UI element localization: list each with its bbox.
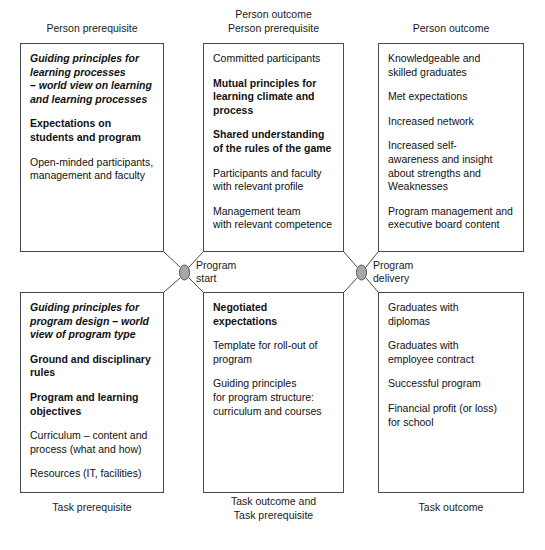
connector-line-tl-to-start: [164, 252, 180, 267]
connector-line-bm-to-delivery: [344, 278, 357, 292]
box-paragraph: Mutual principles for learning climate a…: [213, 77, 334, 118]
caption-top-middle: Person outcome Person prerequisite: [203, 8, 344, 35]
box-paragraph: Committed participants: [213, 52, 334, 66]
box-paragraph: Guiding principles for learning processe…: [30, 52, 154, 106]
box-paragraph: Template for roll-out of program: [213, 339, 334, 366]
box-paragraph: Participants and faculty with relevant p…: [213, 167, 334, 194]
program-start-node[interactable]: [180, 265, 190, 280]
box-paragraph: Expectations on students and program: [30, 117, 154, 144]
box-paragraph: Program and learning objectives: [30, 391, 154, 418]
box-paragraph: Management team with relevant competence: [213, 205, 334, 232]
box-paragraph: Guiding principles for program design – …: [30, 301, 154, 342]
task-prerequisite-box[interactable]: Guiding principles for program design – …: [20, 292, 164, 493]
program-delivery-label: Program delivery: [373, 259, 413, 285]
box-paragraph: Negotiated expectations: [213, 301, 334, 328]
box-paragraph: Knowledgeable and skilled graduates: [388, 52, 514, 79]
person-outcome-prerequisite-box[interactable]: Committed participantsMutual principles …: [203, 43, 344, 252]
value-chain-diagram: Person prerequisite Person outcome Perso…: [0, 0, 545, 550]
task-outcome-box[interactable]: Graduates with diplomasGraduates with em…: [378, 292, 524, 493]
box-paragraph: Increased self- awareness and insight ab…: [388, 139, 514, 193]
task-outcome-prerequisite-box[interactable]: Negotiated expectationsTemplate for roll…: [203, 292, 344, 493]
box-paragraph: Shared understanding of the rules of the…: [213, 128, 334, 155]
box-paragraph: Graduates with employee contract: [388, 339, 514, 366]
box-paragraph: Ground and disciplinary rules: [30, 353, 154, 380]
caption-bottom-left: Task prerequisite: [20, 501, 164, 515]
box-paragraph: Graduates with diplomas: [388, 301, 514, 328]
box-paragraph: Financial profit (or loss) for school: [388, 402, 514, 429]
caption-bottom-middle: Task outcome and Task prerequisite: [203, 495, 344, 522]
person-prerequisite-box[interactable]: Guiding principles for learning processe…: [20, 43, 164, 252]
box-paragraph: Curriculum – content and process (what a…: [30, 429, 154, 456]
box-paragraph: Guiding principles for program structure…: [213, 377, 334, 418]
connector-line-tm-to-delivery: [344, 252, 357, 267]
box-paragraph: Program management and executive board c…: [388, 205, 514, 232]
connector-line-bl-to-start: [164, 278, 180, 292]
box-paragraph: Increased network: [388, 115, 514, 129]
caption-top-left: Person prerequisite: [20, 22, 164, 36]
caption-bottom-right: Task outcome: [378, 501, 524, 515]
box-paragraph: Resources (IT, facilities): [30, 467, 154, 481]
caption-top-right: Person outcome: [378, 22, 524, 36]
box-paragraph: Met expectations: [388, 90, 514, 104]
program-delivery-node[interactable]: [357, 265, 367, 280]
program-start-label: Program start: [196, 259, 236, 285]
person-outcome-box[interactable]: Knowledgeable and skilled graduatesMet e…: [378, 43, 524, 252]
box-paragraph: Successful program: [388, 377, 514, 391]
box-paragraph: Open-minded participants, management and…: [30, 156, 154, 183]
